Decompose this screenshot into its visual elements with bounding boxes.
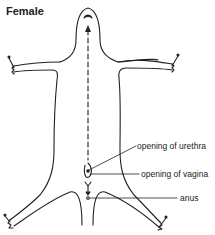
left-body-side — [10, 70, 57, 220]
left-forelimb-top — [14, 62, 60, 66]
midline-arrowhead-icon — [85, 25, 91, 32]
label-opening-of-vagina: opening of vagina — [141, 169, 208, 179]
right-hindlimb-inner — [93, 192, 160, 228]
urethra-leader — [89, 146, 136, 170]
label-opening-of-urethra: opening of urethra — [137, 141, 206, 151]
label-anus: anus — [180, 193, 198, 203]
right-forelimb-top — [118, 60, 172, 64]
mouth-icon — [84, 15, 92, 18]
body-outline-upper — [60, 8, 158, 62]
